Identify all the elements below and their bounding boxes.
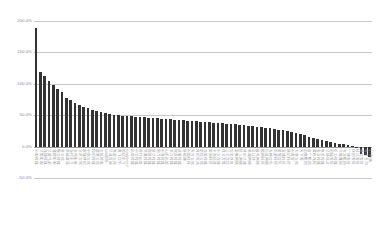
bar [208, 122, 211, 146]
x-tick-label: 长城影视 [73, 149, 77, 165]
x-tick-label: 元隆雅图 [337, 149, 341, 165]
bar [126, 116, 129, 147]
x-tick-label: 天神娱乐 [268, 149, 272, 165]
bar [247, 126, 250, 147]
x-tick-label: 电魂网络 [246, 149, 250, 165]
bar [303, 135, 306, 146]
bar [186, 121, 189, 147]
title-strip [0, 0, 389, 11]
bar [152, 118, 155, 147]
bar [100, 112, 103, 147]
bar [82, 107, 85, 147]
x-tick-label: 中文在线 [216, 149, 220, 165]
bar [351, 146, 354, 147]
bar [156, 118, 159, 146]
x-tick-label: 迅游科技 [272, 149, 276, 165]
bar [316, 139, 319, 147]
bar [277, 130, 280, 147]
bar [238, 125, 241, 147]
x-tick-label: 唐德影视 [51, 149, 55, 165]
bar [269, 128, 272, 146]
x-tick-label: 新文化 [60, 149, 64, 161]
x-tick-label: 游族网络 [233, 149, 237, 165]
bar [325, 141, 328, 146]
bar [173, 120, 176, 147]
y-tick-label: 100.0% [2, 82, 32, 86]
bar [221, 123, 224, 146]
bar [286, 131, 289, 146]
x-tick-label: 南方传媒 [155, 149, 159, 165]
bar [147, 118, 150, 147]
x-tick-label: 读者传媒 [177, 149, 181, 165]
bar [230, 124, 233, 147]
bar [160, 119, 163, 147]
bar [243, 125, 246, 146]
bar [52, 85, 55, 147]
bar [295, 133, 298, 147]
bar [78, 105, 81, 146]
bar [355, 147, 358, 148]
x-tick-label: 出版传媒 [129, 149, 133, 165]
y-axis: 200.0%150.0%100.0%50.0%0.0%-50.0% [0, 21, 32, 178]
bar [308, 137, 311, 147]
bar [338, 144, 341, 147]
x-tick-label: 完美世界 [229, 149, 233, 165]
y-tick-label: -50.0% [2, 176, 32, 180]
x-tick-label: 山东出版 [164, 149, 168, 165]
bar [121, 116, 124, 147]
bar [65, 98, 68, 147]
bar [204, 122, 207, 146]
bar [199, 122, 202, 147]
x-tick-label: 世纪华通 [242, 149, 246, 165]
x-tick-label: 凤凰传媒 [142, 149, 146, 165]
bar [113, 115, 116, 147]
x-tick-label: 大晟文化 [294, 149, 298, 165]
bar [169, 119, 172, 146]
y-tick-label: 200.0% [2, 19, 32, 23]
x-tick-label: ST明诚 [368, 149, 372, 162]
x-tick-label: 幸福蓝海 [64, 149, 68, 165]
x-tick-label: 新华传媒 [151, 149, 155, 165]
bar [212, 123, 215, 147]
x-tick-label: 天舟文化 [190, 149, 194, 165]
x-tick-label: 广博股份 [346, 149, 350, 165]
x-tick-label: 新经典 [181, 149, 185, 161]
bar [299, 134, 302, 147]
bar [104, 113, 107, 146]
bar [251, 126, 254, 147]
x-tick-label: 联创股份 [350, 149, 354, 165]
bar [134, 117, 137, 147]
x-tick-label: 蓝色光标 [311, 149, 315, 165]
bar [191, 121, 194, 147]
chart-screenshot: 200.0%150.0%100.0%50.0%0.0%-50.0% 中视传媒华策… [0, 0, 389, 231]
x-tick-label: 引力传媒 [333, 149, 337, 165]
x-tick-label: 印纪传媒 [90, 149, 94, 165]
bar [195, 121, 198, 146]
bar [256, 127, 259, 147]
bar [347, 145, 350, 146]
bar [117, 115, 120, 146]
bar [342, 144, 345, 146]
x-tick-label: 姚记科技 [285, 149, 289, 165]
bar [143, 117, 146, 146]
bar [87, 108, 90, 146]
x-tick-label: 盛天网络 [255, 149, 259, 165]
bar [165, 119, 168, 147]
bar [234, 124, 237, 146]
x-tick-label: 思美传媒 [320, 149, 324, 165]
x-tick-label: 世纪天鸿 [194, 149, 198, 165]
bar [182, 120, 185, 146]
bar [260, 127, 263, 146]
x-tick-label: 天下秀 [298, 149, 302, 161]
x-tick-label: 中视传媒 [34, 149, 38, 165]
bar [225, 124, 228, 147]
bar [290, 132, 293, 146]
x-tick-label: 宝通科技 [281, 149, 285, 165]
bar [48, 81, 51, 146]
bar [61, 92, 64, 147]
bar [91, 110, 94, 147]
bar [39, 72, 42, 146]
x-tick-label: 华扬联众 [324, 149, 328, 165]
bar [69, 100, 72, 146]
bar [334, 143, 337, 146]
